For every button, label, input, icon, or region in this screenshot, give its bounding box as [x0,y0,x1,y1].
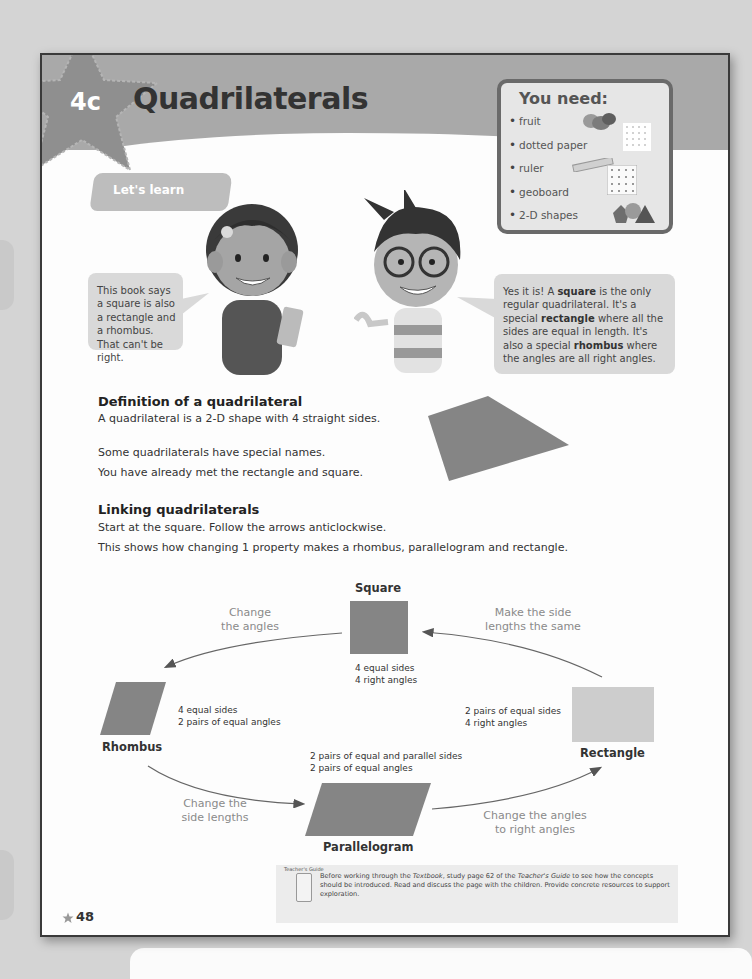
action-make-sides-same: Make the sidelengths the same [478,606,588,634]
action-change-side-lengths: Change theside lengths [170,797,260,825]
square-props: 4 equal sides4 right angles [355,662,417,686]
action-change-angles: Changethe angles [205,606,295,634]
action-change-to-right-angles: Change the anglesto right angles [475,809,595,837]
star-icon [62,912,74,924]
rhombus-shape [100,682,166,735]
rectangle-label: Rectangle [580,746,645,760]
teachers-guide-label: Teacher's Guide [284,866,324,872]
quadrilateral-diagram [0,0,752,979]
rhombus-label: Rhombus [102,740,162,754]
square-label: Square [355,581,401,595]
rectangle-props: 2 pairs of equal sides4 right angles [465,705,561,729]
book-icon [296,873,312,902]
parallelogram-label: Parallelogram [323,840,413,854]
parallelogram-props: 2 pairs of equal and parallel sides2 pai… [310,750,462,774]
arrow-square-to-rhombus [166,633,342,667]
trapezoid-shape [428,396,569,481]
page-number: 48 [76,909,94,924]
rectangle-shape [572,687,654,742]
arrow-rectangle-to-square [424,632,602,677]
arrow-parallelogram-to-rectangle [432,768,600,809]
teachers-guide-note: Before working through the Textbook, stu… [320,872,676,899]
parallelogram-shape [305,783,431,836]
square-shape [350,601,408,654]
rhombus-props: 4 equal sides2 pairs of equal angles [178,704,281,728]
